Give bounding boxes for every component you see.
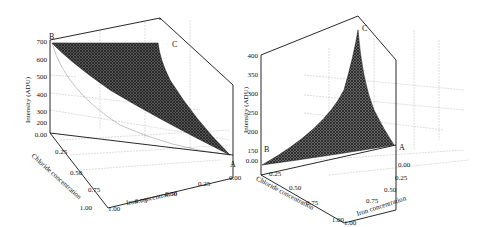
surface-mesh — [52, 43, 230, 155]
svg-text:700: 700 — [37, 38, 48, 46]
svg-text:0.25: 0.25 — [269, 170, 282, 178]
svg-text:1.00: 1.00 — [80, 204, 93, 212]
svg-text:400: 400 — [248, 52, 259, 60]
svg-text:350: 350 — [248, 71, 259, 79]
svg-text:150: 150 — [248, 147, 259, 155]
point-c-label: C — [362, 24, 367, 33]
svg-text:400: 400 — [37, 91, 48, 99]
svg-text:500: 500 — [37, 73, 48, 81]
x-axis-label: Iron concentration — [126, 189, 179, 208]
svg-text:0.25: 0.25 — [395, 174, 408, 182]
z-axis-label: Intensity (ADU) — [244, 86, 250, 133]
svg-text:0.00: 0.00 — [246, 157, 259, 165]
point-c-label: C — [172, 40, 177, 49]
svg-text:0.50: 0.50 — [384, 186, 397, 194]
svg-text:0.25: 0.25 — [198, 180, 211, 188]
point-a-label: A — [399, 143, 405, 152]
point-a-label: A — [230, 160, 236, 169]
svg-text:1.00: 1.00 — [344, 219, 357, 227]
z-axis-label: Intensity (ADU) — [24, 76, 32, 123]
svg-text:1.00: 1.00 — [332, 216, 345, 224]
point-b-label: B — [49, 32, 54, 41]
svg-text:0.00: 0.00 — [398, 161, 411, 169]
svg-text:1.00: 1.00 — [108, 205, 121, 213]
svg-text:0.50: 0.50 — [70, 169, 83, 177]
y-axis-label: Chloride concentration — [255, 175, 316, 213]
left-surface-plot: 700 600 500 400 300 200 0.00 Intensity (… — [0, 0, 243, 227]
svg-text:0.25: 0.25 — [55, 148, 68, 156]
svg-text:0.75: 0.75 — [88, 186, 101, 194]
x-axis-label: Iron concentration — [356, 194, 408, 218]
svg-text:300: 300 — [37, 108, 48, 116]
svg-text:0.00: 0.00 — [35, 131, 48, 139]
svg-text:200: 200 — [37, 119, 48, 127]
point-b-label: B — [264, 145, 269, 154]
right-surface-plot: 400 350 300 250 200 150 0.00 Intensity (… — [244, 0, 487, 227]
svg-text:600: 600 — [37, 56, 48, 64]
svg-text:0.00: 0.00 — [229, 174, 242, 182]
